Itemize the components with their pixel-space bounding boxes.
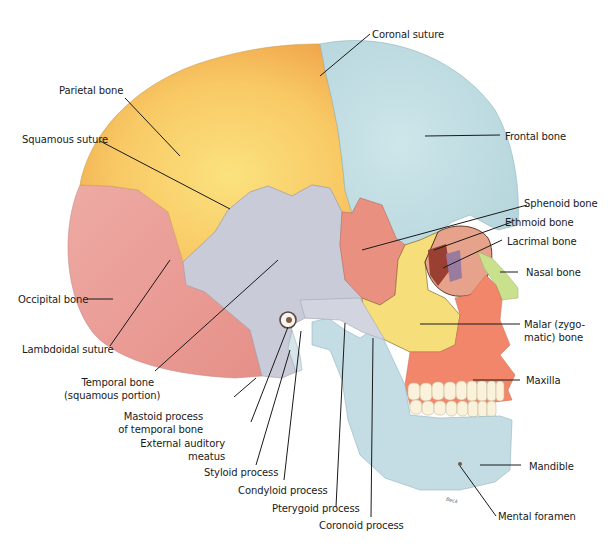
label-lacrimal-bone: Lacrimal bone	[507, 235, 577, 248]
label-ethmoid-bone: Ethmoid bone	[505, 216, 574, 229]
label-mental-foramen: Mental foramen	[498, 510, 576, 523]
label-temporal-line1: Temporal bone	[64, 376, 154, 389]
label-mastoid-line2: of temporal bone	[118, 423, 203, 436]
label-styloid-process: Styloid process	[204, 466, 278, 479]
label-meatus-line2: meatus	[135, 450, 225, 463]
label-sphenoid-bone: Sphenoid bone	[524, 197, 598, 210]
label-external-auditory-meatus: External auditory meatus	[135, 437, 225, 463]
skull-lateral-illustration	[0, 0, 611, 549]
label-maxilla: Maxilla	[526, 374, 560, 387]
label-lambdoidal-suture: Lambdoidal suture	[22, 343, 114, 356]
label-meatus-line1: External auditory	[135, 437, 225, 450]
label-malar-line2: matic) bone	[524, 331, 585, 344]
label-coronal-suture: Coronal suture	[372, 28, 444, 41]
label-mandible: Mandible	[529, 460, 574, 473]
label-temporal-line2: (squamous portion)	[64, 389, 154, 402]
label-temporal-bone: Temporal bone (squamous portion)	[64, 376, 154, 402]
label-pterygoid-process: Pterygoid process	[272, 502, 360, 515]
label-parietal-bone: Parietal bone	[59, 84, 123, 97]
label-frontal-bone: Frontal bone	[505, 130, 566, 143]
label-coronoid-process: Coronoid process	[319, 519, 404, 532]
label-nasal-bone: Nasal bone	[526, 266, 581, 279]
label-malar-bone: Malar (zygo- matic) bone	[524, 318, 585, 344]
label-mastoid-line1: Mastoid process	[118, 410, 203, 423]
label-squamous-suture: Squamous suture	[22, 133, 108, 146]
label-malar-line1: Malar (zygo-	[524, 318, 585, 331]
label-mastoid-process: Mastoid process of temporal bone	[118, 410, 203, 436]
label-occipital-bone: Occipital bone	[18, 293, 88, 306]
label-condyloid-process: Condyloid process	[238, 484, 328, 497]
